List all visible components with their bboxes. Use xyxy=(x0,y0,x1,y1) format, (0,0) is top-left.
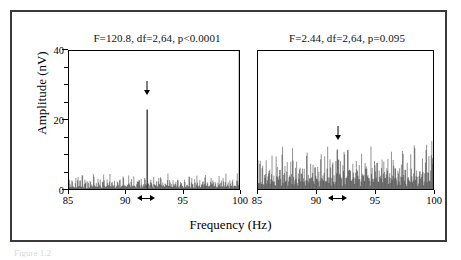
response-marker-arrow-right xyxy=(334,126,342,141)
noise-band-arrow-right xyxy=(328,194,347,203)
x-tick xyxy=(257,190,258,194)
x-tick-label: 85 xyxy=(252,195,263,206)
spectrum-panel-right: 859095100 xyxy=(257,50,434,190)
x-tick-label: 85 xyxy=(63,195,74,206)
x-tick-label: 95 xyxy=(370,195,381,206)
arrow-head xyxy=(335,135,341,140)
y-tick-label: 40 xyxy=(54,45,65,56)
figure-caption-partial: Figure 1.2 xyxy=(14,248,254,257)
x-tick xyxy=(240,190,241,194)
panel-title-right: F=2.44, df=2,64, p=0.095 xyxy=(252,32,442,44)
y-tick-minor xyxy=(64,137,68,138)
x-tick-label: 100 xyxy=(232,195,248,206)
arrow-head-right xyxy=(342,195,347,201)
x-tick-label: 90 xyxy=(120,195,131,206)
noise-band-arrow-left xyxy=(137,194,155,203)
spectrum-trace-left xyxy=(69,51,239,189)
x-tick xyxy=(434,190,435,194)
arrow-head xyxy=(144,90,150,95)
y-tick-minor xyxy=(64,154,68,155)
x-tick xyxy=(316,190,317,194)
response-marker-arrow-left xyxy=(143,81,151,96)
x-tick xyxy=(125,190,126,194)
y-tick-label: 0 xyxy=(59,185,64,196)
y-tick-minor xyxy=(64,172,68,173)
y-axis-title: Amplitude (nV) xyxy=(34,23,50,163)
spectrum-panel-left: 02040 859095100 xyxy=(68,50,240,190)
spectrum-trace-right xyxy=(258,51,433,189)
x-tick xyxy=(68,190,69,194)
figure-frame: F=120.8, df=2,64, p<0.0001 F=2.44, df=2,… xyxy=(10,10,447,242)
x-tick xyxy=(183,190,184,194)
x-tick-label: 95 xyxy=(177,195,188,206)
y-tick-minor xyxy=(64,67,68,68)
y-tick-label: 20 xyxy=(54,115,65,126)
x-tick-label: 90 xyxy=(311,195,322,206)
panel-title-left: F=120.8, df=2,64, p<0.0001 xyxy=(62,32,252,44)
arrow-head-right xyxy=(150,195,155,201)
y-tick-minor xyxy=(64,102,68,103)
x-tick-label: 100 xyxy=(426,195,442,206)
x-tick xyxy=(375,190,376,194)
x-axis-title: Frequency (Hz) xyxy=(12,217,449,233)
y-tick-minor xyxy=(64,84,68,85)
